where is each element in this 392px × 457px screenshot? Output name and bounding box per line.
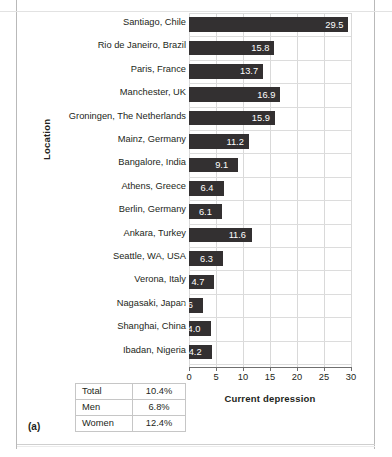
bar-value-label: 6.4 (201, 181, 214, 195)
bar-value-label: 6.1 (199, 205, 212, 219)
category-label: Nagasaki, Japan (117, 298, 186, 308)
summary-table: Total10.4%Men6.8%Women12.4% (75, 383, 186, 432)
bar-row: Groningen, The Netherlands15.9 (0, 107, 392, 130)
bar-value-label: 4.7 (191, 275, 204, 289)
bar-row: Ankara, Turkey11.6 (0, 224, 392, 247)
x-tick (324, 367, 325, 371)
x-tick-label: 5 (203, 372, 229, 382)
summary-row-value: 6.8% (133, 400, 186, 416)
category-label: Verona, Italy (134, 274, 186, 284)
bar-value-label: 11.6 (229, 228, 246, 242)
summary-row-label: Total (76, 384, 133, 400)
bar-row: Nagasaki, Japan2.6 (0, 294, 392, 317)
summary-row-label: Women (76, 416, 133, 432)
bar-value-label: 4.0 (188, 322, 201, 336)
category-label: Ankara, Turkey (123, 228, 186, 238)
bar-value-label: 9.1 (215, 158, 228, 172)
x-tick-label: 25 (311, 372, 337, 382)
category-label: Mainz, Germany (118, 134, 186, 144)
bar-row: Paris, France13.7 (0, 60, 392, 83)
summary-table-row: Total10.4% (76, 384, 186, 400)
x-axis-title: Current depression (189, 393, 351, 404)
bar-value-label: 15.8 (251, 41, 269, 55)
bar-row: Ibadan, Nigeria4.2 (0, 341, 392, 364)
bar-row: Manchester, UK16.9 (0, 83, 392, 106)
x-tick-label: 10 (230, 372, 256, 382)
category-label: Berlin, Germany (119, 204, 186, 214)
x-tick (270, 367, 271, 371)
bar-row: Verona, Italy4.7 (0, 270, 392, 293)
x-tick-label: 30 (338, 372, 364, 382)
bar-value-label: 11.2 (226, 135, 243, 149)
bar-value-label: 15.9 (252, 111, 270, 125)
x-tick (243, 367, 244, 371)
category-label: Santiago, Chile (123, 17, 186, 27)
x-tick-label: 20 (284, 372, 310, 382)
x-tick (189, 367, 190, 371)
bar-row: Mainz, Germany11.2 (0, 130, 392, 153)
summary-row-value: 12.4% (133, 416, 186, 432)
category-label: Seattle, WA, USA (113, 251, 186, 261)
bar-value-label: 13.7 (240, 64, 258, 78)
x-tick (297, 367, 298, 371)
figure-a: Location Santiago, Chile29.5Rio de Janei… (0, 0, 392, 457)
bar-value-label: 16.9 (257, 88, 275, 102)
bar-row: Seattle, WA, USA6.3 (0, 247, 392, 270)
category-label: Groningen, The Netherlands (69, 111, 186, 121)
x-tick-label: 15 (257, 372, 283, 382)
bar-value-label: 6.3 (200, 252, 213, 266)
bar-row: Athens, Greece6.4 (0, 177, 392, 200)
bar-row: Berlin, Germany6.1 (0, 200, 392, 223)
summary-row-label: Men (76, 400, 133, 416)
x-tick (216, 367, 217, 371)
page-edge-bottom-shadow (17, 446, 375, 447)
category-label: Shanghai, China (117, 321, 186, 331)
bar-rows: Santiago, Chile29.5Rio de Janeiro, Brazi… (0, 0, 392, 367)
category-label: Paris, France (131, 64, 186, 74)
summary-row-value: 10.4% (133, 384, 186, 400)
bar-value-label: 4.2 (189, 345, 202, 359)
category-label: Ibadan, Nigeria (123, 345, 186, 355)
bar-value-label: 29.5 (325, 18, 343, 32)
category-label: Manchester, UK (120, 87, 186, 97)
bar-row: Shanghai, China4.0 (0, 317, 392, 340)
bar-row: Rio de Janeiro, Brazil15.8 (0, 36, 392, 59)
summary-table-row: Women12.4% (76, 416, 186, 432)
page-edge-bottom (17, 444, 375, 445)
bar-row: Santiago, Chile29.5 (0, 13, 392, 36)
category-label: Athens, Greece (121, 181, 186, 191)
category-label: Bangalore, India (118, 157, 186, 167)
x-tick (351, 367, 352, 371)
bar-value-label: 2.6 (180, 298, 193, 312)
x-tick-label: 0 (176, 372, 202, 382)
summary-table-row: Men6.8% (76, 400, 186, 416)
category-label: Rio de Janeiro, Brazil (98, 40, 186, 50)
bar-row: Bangalore, India9.1 (0, 153, 392, 176)
figure-letter: (a) (28, 421, 40, 432)
bar[interactable] (189, 158, 238, 173)
